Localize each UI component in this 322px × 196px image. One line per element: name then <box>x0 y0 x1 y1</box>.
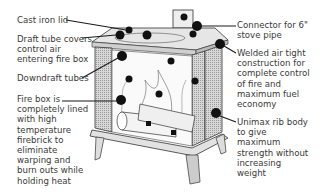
stove-left-panel <box>95 47 112 132</box>
label-draft-tube-covers: Draft tube covers control air entering f… <box>17 34 92 65</box>
label-cast-iron-lid: Cast iron lid <box>17 15 68 25</box>
label-downdraft-tubes: Downdraft tubes <box>17 73 89 83</box>
label-welded: Welded air tight construction for comple… <box>237 48 310 109</box>
stove-leg <box>186 155 200 184</box>
label-unimax: Unimax rib body to give maximum strength… <box>237 117 308 178</box>
label-fire-box: Fire box is completely lined with high t… <box>17 94 88 186</box>
stove-leg <box>95 137 104 160</box>
label-connector: Connector for 6" stove pipe <box>237 20 308 40</box>
stove-right-panel <box>192 51 205 146</box>
